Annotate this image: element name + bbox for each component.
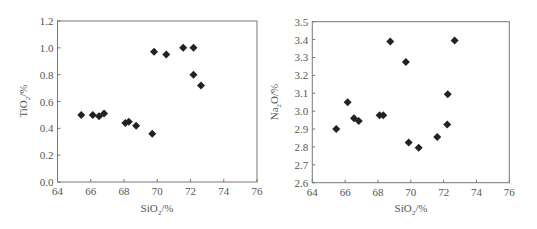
diamond-marker bbox=[89, 111, 97, 119]
diamond-marker bbox=[405, 138, 413, 146]
na2o-vs-sio2-chart: 2.62.72.82.93.03.13.23.33.43.5 646668707… bbox=[268, 16, 515, 217]
x-tick-label: 76 bbox=[252, 185, 264, 197]
diamond-marker bbox=[132, 122, 140, 130]
y-tick-label: 0.8 bbox=[40, 69, 54, 81]
x-tick-label: 76 bbox=[504, 186, 516, 198]
data-points bbox=[332, 36, 458, 151]
diamond-marker bbox=[150, 48, 158, 56]
diamond-marker bbox=[402, 58, 410, 66]
y-tick-label: 3.2 bbox=[295, 69, 309, 81]
diamond-marker bbox=[451, 36, 459, 44]
x-tick-label: 72 bbox=[185, 185, 196, 197]
diamond-marker bbox=[344, 98, 352, 106]
y-tick-label: 0.6 bbox=[40, 96, 54, 108]
y-tick-label: 3.3 bbox=[295, 51, 309, 63]
tio2-vs-sio2-chart: 0.00.20.40.60.81.01.2 64666870727476 SiO… bbox=[17, 15, 263, 217]
y-tick-label: 0.4 bbox=[40, 122, 54, 134]
x-tick-label: 64 bbox=[307, 186, 319, 198]
x-axis-label: SiO2/% bbox=[141, 202, 174, 217]
x-tick-label: 72 bbox=[438, 186, 449, 198]
y-tick-label: 1.0 bbox=[40, 42, 54, 54]
y-tick-label: 3.4 bbox=[295, 34, 309, 46]
plot-frame bbox=[312, 22, 509, 183]
y-tick-label: 2.7 bbox=[295, 159, 309, 171]
diamond-marker bbox=[189, 71, 197, 79]
diamond-marker bbox=[197, 81, 205, 89]
y-axis-label: Na2O/% bbox=[268, 84, 283, 121]
diamond-marker bbox=[415, 144, 423, 152]
data-points bbox=[77, 44, 205, 138]
x-tick-label: 74 bbox=[218, 185, 230, 197]
figure: 0.00.20.40.60.81.01.2 64666870727476 SiO… bbox=[0, 0, 537, 229]
y-tick-label: 3.1 bbox=[295, 87, 309, 99]
x-axis-label: SiO2/% bbox=[395, 202, 428, 217]
x-tick-label: 74 bbox=[471, 186, 483, 198]
diamond-marker bbox=[148, 130, 156, 138]
y-tick-label: 1.2 bbox=[40, 15, 54, 27]
y-tick-label: 0.2 bbox=[40, 149, 54, 161]
x-tick-label: 70 bbox=[405, 186, 417, 198]
y-axis-label: TiO2/% bbox=[17, 84, 32, 117]
diamond-marker bbox=[179, 44, 187, 52]
diamond-marker bbox=[162, 51, 170, 59]
diamond-marker bbox=[77, 111, 85, 119]
y-tick-label: 2.9 bbox=[295, 123, 309, 135]
y-tick-label: 2.8 bbox=[295, 141, 309, 153]
diamond-marker bbox=[443, 121, 451, 129]
x-tick-label: 66 bbox=[340, 186, 352, 198]
x-tick-label: 68 bbox=[119, 185, 131, 197]
y-tick-label: 3.5 bbox=[295, 16, 309, 28]
diamond-marker bbox=[189, 44, 197, 52]
x-tick-label: 66 bbox=[85, 185, 97, 197]
diamond-marker bbox=[433, 133, 441, 141]
x-tick-label: 68 bbox=[372, 186, 384, 198]
plot-frame bbox=[58, 21, 258, 182]
diamond-marker bbox=[386, 37, 394, 45]
y-tick-label: 3.0 bbox=[295, 105, 309, 117]
diamond-marker bbox=[444, 90, 452, 98]
diamond-marker bbox=[332, 125, 340, 133]
x-tick-label: 64 bbox=[52, 185, 64, 197]
x-tick-label: 70 bbox=[152, 185, 164, 197]
